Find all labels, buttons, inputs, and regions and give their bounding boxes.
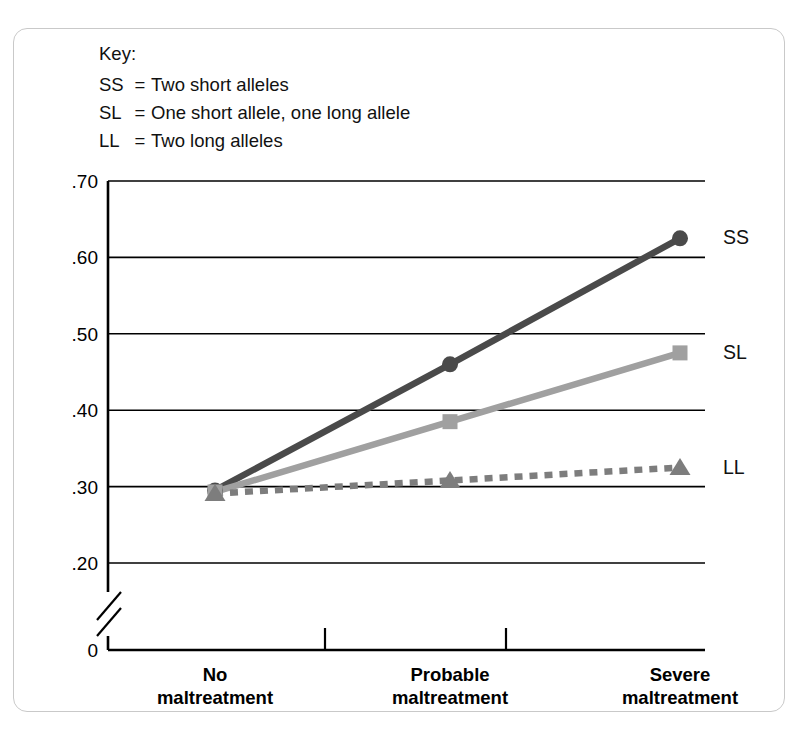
y-axis-break-icon	[97, 592, 121, 636]
chart-plot-area	[0, 0, 802, 738]
data-point-marker-ss	[442, 356, 458, 372]
axes-group	[108, 181, 705, 650]
x-tick-marks-group	[325, 628, 506, 650]
figure-page: Key: SS = Two short alleles SL = One sho…	[0, 0, 802, 738]
data-point-marker-sl	[673, 345, 688, 360]
data-point-marker-ss	[672, 230, 688, 246]
data-point-marker-sl	[443, 414, 458, 429]
data-point-marker-ll	[670, 458, 691, 475]
